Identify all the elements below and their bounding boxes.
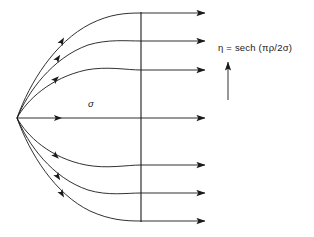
ray-top-3 [17, 68, 141, 118]
ray-bottom-2 [17, 118, 141, 194]
ray-bottom-3-head [17, 118, 62, 194]
axis-sigma-label: σ [88, 98, 94, 109]
ray-bottom-1 [17, 118, 141, 167]
ray-top-1-head [17, 41, 62, 118]
equation-label: η = sech (πρ/2σ) [218, 42, 292, 53]
ray-top-1 [17, 13, 141, 118]
ray-diagram [0, 0, 314, 237]
figure-root: η = sech (πρ/2σ) σ [0, 0, 314, 237]
ray-bottom-1-head [17, 118, 56, 156]
ray-bottom-3 [17, 118, 141, 221]
